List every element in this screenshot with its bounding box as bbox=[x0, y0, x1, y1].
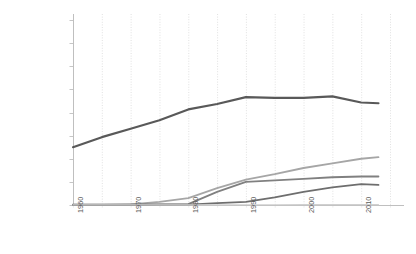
line-chart: 030,000,00060,000,00090,000,000120,000,0… bbox=[0, 0, 416, 254]
x-axis-label-2: 1980 bbox=[191, 197, 200, 213]
x-axis-labels: 196019701980199020002010 bbox=[0, 0, 416, 254]
x-axis-label-4: 2000 bbox=[307, 197, 316, 213]
x-axis-label-3: 1990 bbox=[249, 197, 258, 213]
x-axis-label-5: 2010 bbox=[364, 197, 373, 213]
x-axis-label-0: 1960 bbox=[76, 197, 85, 213]
x-axis-label-1: 1970 bbox=[134, 197, 143, 213]
